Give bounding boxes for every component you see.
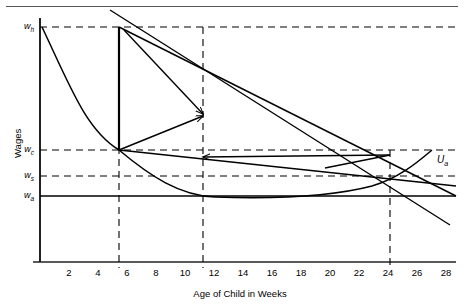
xtick-12: 12 — [204, 267, 224, 278]
xtick-4: 4 — [88, 267, 108, 278]
y-axis-title: Wages — [12, 129, 23, 158]
xtick-18: 18 — [291, 267, 311, 278]
arrow-wh-to-equilibrium — [124, 30, 203, 114]
ylabel-wh: wh — [10, 21, 34, 33]
xtick-14: 14 — [233, 267, 253, 278]
xtick-22: 22 — [349, 267, 369, 278]
steep-budget-line — [110, 10, 450, 225]
arrow-wc-to-equilibrium — [119, 116, 203, 150]
xtick-28: 28 — [436, 267, 456, 278]
x-axis-title: Age of Child in Weeks — [140, 288, 340, 299]
xtick-10: 10 — [175, 267, 195, 278]
ua-curve-label: Ua — [437, 154, 448, 167]
xtick-26: 26 — [407, 267, 427, 278]
xtick-20: 20 — [320, 267, 340, 278]
ylabel-wa: wa — [10, 190, 34, 202]
ua-indifference-curve — [119, 150, 432, 198]
ylabel-ws: ws — [10, 170, 34, 182]
arrow-week24-to-week13 — [203, 155, 390, 157]
economics-figure: wh wc ws wa Ua 2 4 6 8 10 12 14 16 18 20… — [0, 0, 464, 305]
declining-wage-curve — [42, 27, 119, 150]
xtick-2: 2 — [59, 267, 79, 278]
xtick-8: 8 — [146, 267, 166, 278]
shallow-budget-line — [119, 27, 456, 196]
xtick-16: 16 — [262, 267, 282, 278]
xtick-24: 24 — [378, 267, 398, 278]
xtick-6: 6 — [117, 267, 137, 278]
chart-canvas — [0, 0, 464, 305]
